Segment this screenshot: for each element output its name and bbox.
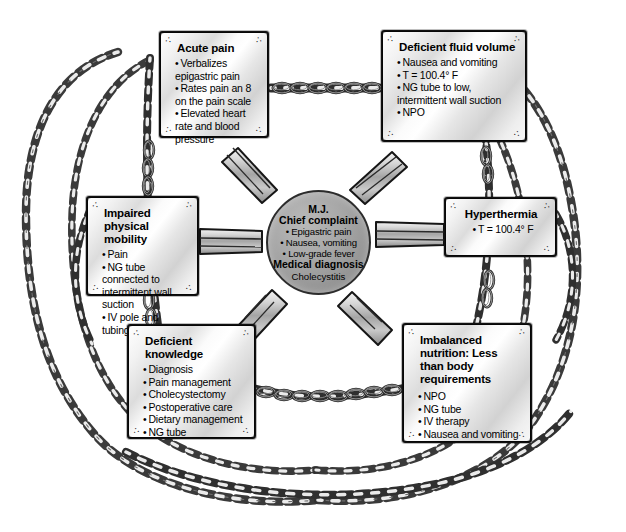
node-item-list: •Verbalizes epigastric pain •Rates pain … xyxy=(171,57,258,145)
node-item: •NPO xyxy=(418,390,521,403)
node-item: •NG tube xyxy=(418,403,521,416)
corner-curl-icon: ∴ xyxy=(513,128,521,138)
corner-curl-icon: ∴ xyxy=(386,34,394,44)
corner-curl-icon: ∴ xyxy=(449,243,457,253)
node-title: Acute pain xyxy=(177,42,258,55)
bullet-glyph: • xyxy=(175,57,178,69)
chief-complaint-label: Chief complaint xyxy=(279,215,358,227)
corner-curl-icon: ∴ xyxy=(543,243,551,253)
node-item: •NG tube to low, intermittent wall sucti… xyxy=(397,81,516,106)
bullet-glyph: • xyxy=(418,403,421,415)
corner-curl-icon: ∴ xyxy=(164,35,172,45)
bullet-glyph: • xyxy=(418,428,421,440)
bullet-glyph: • xyxy=(175,82,178,94)
corner-curl-icon: ∴ xyxy=(132,328,140,338)
bullet-glyph: • xyxy=(472,223,475,235)
bullet-glyph: • xyxy=(102,261,105,273)
bullet-glyph: • xyxy=(418,415,421,427)
node-item: •Rates pain an 8 on the pain scale xyxy=(175,82,258,107)
node-item: •Elevated heart rate and blood pressure xyxy=(175,107,258,145)
chief-complaint-item: • Epigastric pain xyxy=(286,226,352,237)
node-item: •Verbalizes epigastric pain xyxy=(175,57,258,82)
bullet-glyph: • xyxy=(286,226,289,237)
node-item: •Pain xyxy=(102,248,188,261)
node-item: •Postoperative care xyxy=(143,401,245,414)
bullet-glyph: • xyxy=(397,81,400,93)
node-item: •Cholecystectomy xyxy=(143,388,245,401)
bullet-glyph: • xyxy=(397,69,400,81)
node-item-list: •NPO •NG tube •IV therapy •Nausea and vo… xyxy=(414,390,521,440)
bullet-glyph: • xyxy=(143,376,146,388)
bullet-glyph: • xyxy=(397,56,400,68)
bullet-glyph: • xyxy=(175,107,178,119)
node-item: •IV therapy xyxy=(418,415,521,428)
bullet-glyph: • xyxy=(143,413,146,425)
node-item: •T = 100.4° F xyxy=(397,69,516,82)
node-item-list: •Nausea and vomiting •T = 100.4° F •NG t… xyxy=(393,56,516,119)
node-title: Deficient knowledge xyxy=(145,335,245,361)
concept-map-canvas: M.J. Chief complaint • Epigastric pain •… xyxy=(0,0,626,532)
patient-initials: M.J. xyxy=(308,204,328,215)
bullet-glyph: • xyxy=(397,106,400,118)
node-item: •NPO xyxy=(397,106,516,119)
node-acute-pain[interactable]: ∴ ∴ ∴ ∴ Acute pain •Verbalizes epigastri… xyxy=(159,31,269,138)
medical-diagnosis-label: Medical diagnosis xyxy=(273,259,363,271)
bullet-glyph: • xyxy=(143,363,146,375)
node-item: •Dietary management xyxy=(143,413,245,426)
node-item-list: •T = 100.4° F xyxy=(456,223,546,236)
node-title: Impaired physical mobility xyxy=(104,207,188,246)
node-item: •T = 100.4° F xyxy=(460,223,546,236)
bullet-glyph: • xyxy=(102,248,105,260)
bullet-glyph: • xyxy=(102,311,105,323)
chief-complaint-item: • Nausea, vomiting xyxy=(280,237,357,248)
node-title: Imbalanced nutrition: Less than body req… xyxy=(420,334,521,386)
node-item: •NG tube connected to intermittent wall … xyxy=(102,261,188,311)
node-item-list: •Pain •NG tube connected to intermittent… xyxy=(98,248,188,336)
node-title: Deficient fluid volume xyxy=(399,41,516,54)
node-deficient-knowledge[interactable]: ∴ ∴ ∴ ∴ Deficient knowledge •Diagnosis •… xyxy=(127,324,256,439)
bullet-glyph: • xyxy=(143,426,146,438)
node-item-list: •Diagnosis •Pain management •Cholecystec… xyxy=(139,363,245,439)
node-item: •Nausea and vomiting xyxy=(397,56,516,69)
node-hyperthermia[interactable]: ∴ ∴ ∴ ∴ Hyperthermia •T = 100.4° F xyxy=(444,197,557,257)
node-deficient-fluid-volume[interactable]: ∴ ∴ ∴ ∴ Deficient fluid volume •Nausea a… xyxy=(381,30,527,142)
corner-curl-icon: ∴ xyxy=(386,128,394,138)
bullet-glyph: • xyxy=(280,237,283,248)
node-item: •Nausea and vomiting xyxy=(418,428,521,441)
corner-curl-icon: ∴ xyxy=(407,327,415,337)
medical-diagnosis-value: Cholecystitis xyxy=(292,271,346,282)
node-item: •Diagnosis xyxy=(143,363,245,376)
bullet-glyph: • xyxy=(143,388,146,400)
node-title: Hyperthermia xyxy=(456,208,546,221)
corner-curl-icon: ∴ xyxy=(91,200,99,210)
node-item: •Pain management xyxy=(143,376,245,389)
bullet-glyph: • xyxy=(418,390,421,402)
node-imbalanced-nutrition[interactable]: ∴ ∴ ∴ ∴ Imbalanced nutrition: Less than … xyxy=(402,323,532,443)
node-impaired-physical-mobility[interactable]: ∴ ∴ ∴ ∴ Impaired physical mobility •Pain… xyxy=(86,196,199,296)
node-item: •NG tube xyxy=(143,426,245,439)
center-node-patient[interactable]: M.J. Chief complaint • Epigastric pain •… xyxy=(266,190,371,295)
bullet-glyph: • xyxy=(143,401,146,413)
